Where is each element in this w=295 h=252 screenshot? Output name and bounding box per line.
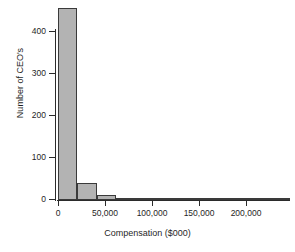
x-axis-tick-label-100000: 100,000: [137, 208, 168, 218]
y-axis-title: Number of CEO's: [15, 13, 25, 153]
histogram-bar: [58, 8, 77, 200]
y-axis-tick-0: [49, 199, 55, 200]
histogram-bar: [135, 198, 154, 200]
x-axis-tick-50000: [105, 201, 106, 206]
histogram-bar: [271, 198, 290, 200]
histogram-bar: [193, 198, 212, 200]
y-axis-line: [55, 29, 56, 201]
x-axis-title: Compensation ($000): [0, 228, 295, 238]
histogram-bar: [232, 198, 251, 200]
x-axis-tick-label-0: 0: [56, 208, 61, 218]
x-axis-tick-0: [58, 201, 59, 206]
x-axis-tick-label-150000: 150,000: [184, 208, 215, 218]
y-axis-tick-400: [49, 31, 55, 32]
histogram-bar: [174, 198, 193, 200]
histogram-bar: [116, 198, 135, 200]
y-axis-tick-label-200: 200: [32, 111, 46, 120]
histogram-chart: 400 300 200 100 0 0 50,000 100,000 150,0…: [0, 0, 295, 252]
histogram-bar: [155, 198, 174, 200]
x-axis-tick-100000: [152, 201, 153, 206]
y-axis-tick-100: [49, 157, 55, 158]
histogram-bar: [97, 195, 116, 200]
y-axis-tick-label-0: 0: [41, 195, 46, 204]
histogram-bars: [58, 8, 290, 200]
histogram-bar: [77, 183, 96, 200]
x-axis-tick-150000: [199, 201, 200, 206]
y-axis-tick-label-100: 100: [32, 153, 46, 162]
y-axis-tick-label-400: 400: [32, 27, 46, 36]
y-axis-tick-200: [49, 115, 55, 116]
x-axis-line: [57, 200, 290, 201]
y-axis-tick-label-300: 300: [32, 69, 46, 78]
x-axis-tick-label-50000: 50,000: [92, 208, 118, 218]
y-axis-tick-300: [49, 73, 55, 74]
x-axis-tick-200000: [246, 201, 247, 206]
histogram-bar: [251, 198, 270, 200]
histogram-bar: [213, 198, 232, 200]
x-axis-tick-label-200000: 200,000: [231, 208, 262, 218]
